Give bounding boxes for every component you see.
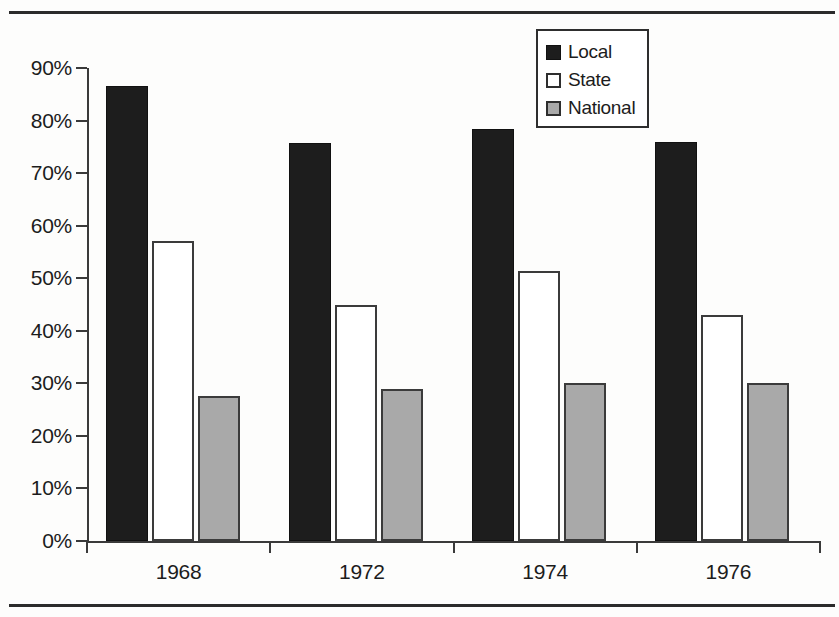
bar-state-1968 bbox=[152, 241, 194, 541]
chart-legend: Local State National bbox=[536, 29, 649, 128]
bar-national-1976 bbox=[747, 383, 789, 541]
legend-label-local: Local bbox=[568, 41, 612, 63]
bar-local-1968 bbox=[106, 86, 148, 541]
y-axis-label: 60% bbox=[31, 214, 72, 238]
y-tick-60% bbox=[76, 225, 87, 227]
legend-item-national: National bbox=[546, 94, 647, 122]
y-axis-label: 0% bbox=[42, 529, 72, 553]
legend-item-local: Local bbox=[546, 38, 647, 66]
x-tick-boundary bbox=[269, 541, 271, 553]
x-axis-label: 1968 bbox=[156, 560, 202, 584]
y-tick-20% bbox=[76, 435, 87, 437]
y-axis-label: 80% bbox=[31, 109, 72, 133]
y-axis-label: 40% bbox=[31, 319, 72, 343]
figure-container: 0%10%20%30%40%50%60%70%80%90% 1968197219… bbox=[0, 0, 839, 617]
y-tick-70% bbox=[76, 172, 87, 174]
y-tick-80% bbox=[76, 120, 87, 122]
x-tick-boundary bbox=[453, 541, 455, 553]
bar-state-1974 bbox=[518, 271, 560, 541]
y-axis-label: 30% bbox=[31, 371, 72, 395]
legend-item-state: State bbox=[546, 66, 647, 94]
bar-state-1976 bbox=[701, 315, 743, 541]
horizontal-rule-top bbox=[9, 11, 835, 14]
legend-swatch-national-icon bbox=[546, 101, 561, 116]
x-axis-label: 1974 bbox=[522, 560, 568, 584]
legend-label-state: State bbox=[568, 69, 611, 91]
y-tick-40% bbox=[76, 330, 87, 332]
bar-local-1976 bbox=[655, 142, 697, 541]
y-tick-50% bbox=[76, 277, 87, 279]
y-axis-line bbox=[87, 68, 89, 541]
x-tick-boundary bbox=[636, 541, 638, 553]
x-tick-boundary bbox=[86, 541, 88, 553]
plot-area: 0%10%20%30%40%50%60%70%80%90% 1968197219… bbox=[87, 68, 820, 541]
bar-state-1972 bbox=[335, 305, 377, 542]
x-axis-label: 1972 bbox=[339, 560, 385, 584]
y-axis-label: 10% bbox=[31, 476, 72, 500]
bar-local-1972 bbox=[289, 143, 331, 541]
bar-local-1974 bbox=[472, 129, 514, 541]
legend-swatch-local-icon bbox=[546, 45, 561, 60]
y-axis-label: 50% bbox=[31, 266, 72, 290]
bar-national-1974 bbox=[564, 383, 606, 541]
y-tick-30% bbox=[76, 382, 87, 384]
y-tick-90% bbox=[76, 67, 87, 69]
y-axis-label: 90% bbox=[31, 56, 72, 80]
y-axis-label: 70% bbox=[31, 161, 72, 185]
x-axis-label: 1976 bbox=[706, 560, 752, 584]
y-axis-label: 20% bbox=[31, 424, 72, 448]
bar-national-1968 bbox=[198, 396, 240, 541]
bar-national-1972 bbox=[381, 389, 423, 541]
y-tick-10% bbox=[76, 487, 87, 489]
x-tick-boundary bbox=[819, 541, 821, 553]
legend-swatch-state-icon bbox=[546, 73, 561, 88]
horizontal-rule-bottom bbox=[9, 604, 835, 607]
legend-label-national: National bbox=[568, 97, 635, 119]
